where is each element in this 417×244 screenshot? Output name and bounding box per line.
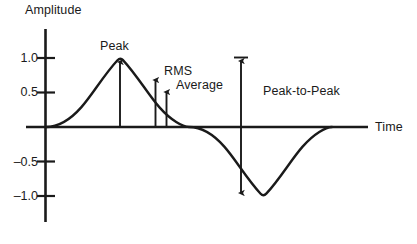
y-axis-title: Amplitude xyxy=(25,4,82,17)
y-tick-label-neg1.0: –1.0 xyxy=(2,190,38,203)
annotation-label-rms: RMS xyxy=(164,65,192,78)
annotation-label-peak: Peak xyxy=(100,40,129,53)
x-axis-title: Time xyxy=(375,121,403,134)
waveform-figure: Amplitude Time 1.0 0.5 –0.5 –1.0 Peak RM… xyxy=(0,0,417,244)
y-tick-label-0.5: 0.5 xyxy=(8,86,38,99)
annotation-label-peak-to-peak: Peak-to-Peak xyxy=(263,85,340,98)
annotation-label-average: Average xyxy=(176,79,223,92)
y-tick-label-neg0.5: –0.5 xyxy=(2,156,38,169)
waveform-diagram xyxy=(0,0,417,244)
y-tick-label-1.0: 1.0 xyxy=(8,52,38,65)
